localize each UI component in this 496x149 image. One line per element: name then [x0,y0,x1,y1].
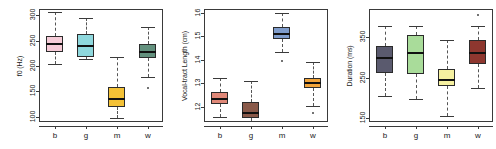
cap-lower [141,77,155,78]
cap-lower [409,99,423,100]
box-b [376,46,393,73]
median-line [273,33,290,35]
cap-upper [213,78,227,79]
whisker-lower [478,64,479,88]
median-line [376,57,393,59]
outlier-point [281,60,283,62]
x-tick-label-g: g [409,131,423,140]
y-tick-mark [36,117,39,118]
whisker-lower [220,104,221,117]
cap-upper [244,81,258,82]
x-tick-label-m: m [110,131,124,140]
median-line [211,98,228,100]
cap-upper [306,62,320,63]
cap-upper [409,26,423,27]
x-tick-label-w: w [141,131,155,140]
y-tick-label: 350 [359,30,366,44]
whisker-upper [416,26,417,35]
y-tick-mark [36,66,39,67]
y-tick-label: 15 [194,29,201,43]
x-tick-label-b: b [378,131,392,140]
cap-upper [48,12,62,13]
y-tick-mark [36,15,39,16]
outlier-point [312,112,314,114]
cap-lower [48,64,62,65]
y-tick-label: 150 [29,84,36,98]
cap-lower [440,116,454,117]
y-tick-mark [201,13,204,14]
cap-lower [213,117,227,118]
cap-lower [110,118,124,119]
boxplot-figure: f0 (Hz)100150200250300bgmwVocal-tract Le… [0,0,496,149]
x-tick-label-g: g [244,131,258,140]
median-line [139,51,156,53]
cap-upper [275,13,289,14]
y-tick-label: 250 [29,33,36,47]
whisker-lower [55,52,56,64]
median-line [242,112,259,114]
whisker-lower [148,58,149,77]
x-axis-line [39,126,163,127]
x-tick-label-m: m [440,131,454,140]
outlier-point [477,14,479,16]
whisker-lower [117,107,118,118]
whisker-upper [220,78,221,92]
median-line [407,52,424,54]
whisker-upper [447,40,448,68]
y-tick-mark [36,91,39,92]
median-line [304,82,321,84]
y-axis-title: Vocal-tract Length (cm) [181,30,188,100]
cap-lower [306,106,320,107]
y-axis-title: Duration (ms) [346,45,353,86]
whisker-upper [86,18,87,34]
x-axis-line [204,126,328,127]
median-line [469,52,486,54]
x-tick-label-w: w [306,131,320,140]
cap-upper [440,40,454,41]
whisker-upper [148,27,149,44]
y-axis-title: f0 (Hz) [16,55,23,75]
y-tick-label: 100 [29,109,36,123]
median-line [108,98,125,100]
y-tick-mark [201,36,204,37]
whisker-upper [282,13,283,27]
whisker-lower [416,74,417,98]
whisker-upper [478,26,479,40]
y-tick-label: 250 [359,70,366,84]
outlier-point [147,87,149,89]
median-line [438,79,455,81]
y-tick-label: 200 [29,59,36,73]
x-tick-label-g: g [79,131,93,140]
cap-upper [141,27,155,28]
x-tick-label-b: b [48,131,62,140]
plot-area [39,9,163,122]
y-tick-mark [201,60,204,61]
y-tick-mark [366,78,369,79]
whisker-upper [385,26,386,46]
y-tick-label: 300 [29,8,36,22]
x-tick-label-m: m [275,131,289,140]
y-tick-mark [201,83,204,84]
whisker-upper [55,12,56,36]
cap-lower [378,96,392,97]
y-tick-mark [36,41,39,42]
y-tick-mark [201,107,204,108]
x-tick-label-w: w [471,131,485,140]
median-line [46,43,63,45]
cap-upper [79,18,93,19]
whisker-upper [313,62,314,78]
whisker-lower [447,86,448,115]
whisker-upper [251,81,252,102]
cap-upper [471,26,485,27]
median-line [77,45,94,47]
box-m [438,69,455,87]
x-tick-label-b: b [213,131,227,140]
cap-lower [244,121,258,122]
y-tick-label: 12 [194,99,201,113]
y-tick-mark [366,37,369,38]
cap-upper [378,26,392,27]
cap-upper [110,57,124,58]
whisker-lower [282,39,283,52]
y-tick-label: 14 [194,52,201,66]
y-tick-label: 150 [359,110,366,124]
